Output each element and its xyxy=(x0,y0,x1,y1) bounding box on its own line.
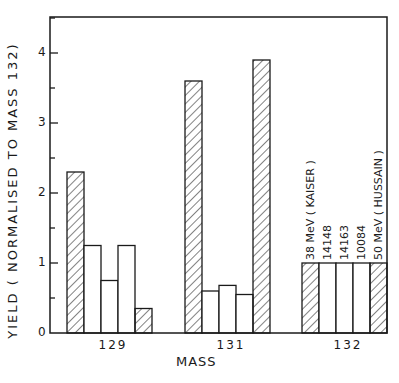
y-tick-label: 2 xyxy=(38,185,46,199)
x-tick-label: 132 xyxy=(334,338,363,352)
series-label: 38 MeV ( KAISER ) xyxy=(304,160,317,260)
bar-131-2 xyxy=(202,291,219,333)
bar-129-4 xyxy=(118,246,135,334)
bar-132-4 xyxy=(353,263,370,333)
y-axis-title: YIELD ( NORMALISED TO MASS 132) xyxy=(5,42,20,338)
bar-132-3 xyxy=(336,263,353,333)
bar-131-1 xyxy=(185,81,202,333)
y-tick-label: 0 xyxy=(38,325,46,339)
series-label: 14148 xyxy=(321,225,334,260)
bar-132-1 xyxy=(302,263,319,333)
y-axis-ticks xyxy=(50,18,58,298)
y-axis-title-container: YIELD ( NORMALISED TO MASS 132) xyxy=(2,40,22,340)
chart-canvas xyxy=(0,0,399,383)
bar-129-2 xyxy=(84,246,101,334)
bars-group xyxy=(67,60,387,333)
y-tick-label: 3 xyxy=(38,115,46,129)
y-tick-label: 1 xyxy=(38,255,46,269)
bar-132-2 xyxy=(319,263,336,333)
bar-131-5 xyxy=(253,60,270,333)
x-tick-label: 129 xyxy=(99,338,128,352)
series-label: 14163 xyxy=(338,225,351,260)
x-tick-label: 131 xyxy=(217,338,246,352)
bar-129-3 xyxy=(101,281,118,334)
bar-131-4 xyxy=(236,295,253,334)
series-label: 10084 xyxy=(355,225,368,260)
y-tick-label: 4 xyxy=(38,45,46,59)
x-axis-title: MASS xyxy=(176,354,217,369)
bar-129-1 xyxy=(67,172,84,333)
series-label: 50 MeV ( HUSSAIN ) xyxy=(372,150,385,260)
bar-129-5 xyxy=(135,309,152,334)
bar-131-3 xyxy=(219,285,236,333)
bar-132-5 xyxy=(370,263,387,333)
